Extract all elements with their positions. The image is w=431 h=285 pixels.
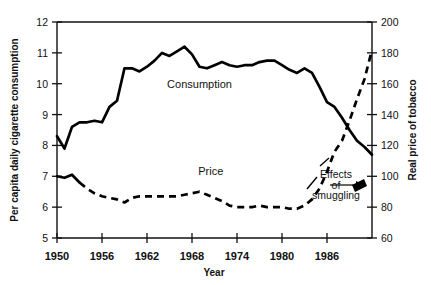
left-tick-label: 8 <box>42 139 48 151</box>
left-tick-label: 9 <box>42 109 48 121</box>
right-tick-label: 160 <box>381 78 399 90</box>
consumption-line <box>57 47 372 155</box>
right-tick-label: 100 <box>381 170 399 182</box>
smuggling-note-line3: smuggling <box>312 189 360 201</box>
left-axis-ticks: 56789101112 <box>36 16 62 244</box>
y2-axis-title: Real price of tobacco <box>407 79 418 180</box>
x-tick-label: 1986 <box>315 250 339 262</box>
consumption-series-label: Consumption <box>167 78 232 90</box>
x-axis-title: Year <box>203 267 224 278</box>
x-tick-label: 1956 <box>90 250 114 262</box>
left-tick-label: 12 <box>36 16 48 28</box>
right-tick-label: 120 <box>381 139 399 151</box>
right-tick-label: 80 <box>381 201 393 213</box>
x-tick-label: 1950 <box>45 250 69 262</box>
line-chart: 56789101112 6080100120140160180200 19501… <box>0 0 431 285</box>
chart-text-layer: ConsumptionPriceEffectsofsmuggling <box>167 78 360 201</box>
left-tick-label: 7 <box>42 170 48 182</box>
x-tick-label: 1962 <box>135 250 159 262</box>
right-tick-label: 60 <box>381 232 393 244</box>
chart-figure: 56789101112 6080100120140160180200 19501… <box>0 0 431 285</box>
right-tick-label: 140 <box>381 109 399 121</box>
left-tick-label: 5 <box>42 232 48 244</box>
right-tick-label: 180 <box>381 47 399 59</box>
price-line-solid-segment <box>57 175 80 183</box>
x-tick-label: 1974 <box>225 250 250 262</box>
left-tick-label: 10 <box>36 78 48 90</box>
price-series-label: Price <box>198 165 223 177</box>
data-series-layer <box>57 47 372 209</box>
y-axis-title: Per capita daily cigarette consumption <box>9 38 20 221</box>
left-tick-label: 11 <box>37 47 48 59</box>
axes-frame <box>57 22 372 238</box>
x-tick-label: 1968 <box>180 250 204 262</box>
right-tick-label: 200 <box>381 16 399 28</box>
x-tick-label: 1980 <box>270 250 294 262</box>
left-tick-label: 6 <box>42 201 48 213</box>
